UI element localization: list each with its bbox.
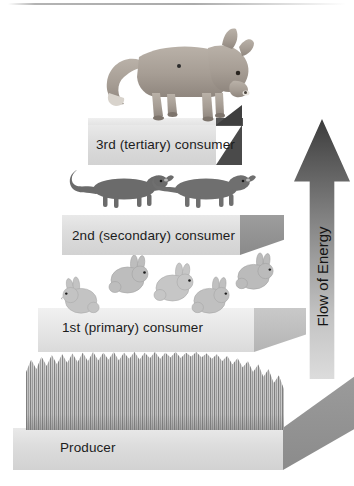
pyramid-label-producer: Producer [60, 440, 116, 455]
top-divider-rule [8, 3, 346, 5]
rabbit-icon [232, 252, 280, 292]
pyramid-label-primary-consumer: 1st (primary) consumer [62, 320, 203, 335]
energy-pyramid-diagram: Producer 1st (primary) consumer [0, 0, 354, 486]
rabbit-icon [105, 254, 155, 296]
weasel-icon [150, 163, 258, 211]
pyramid-label-tertiary-consumer: 3rd (tertiary) consumer [96, 137, 235, 152]
arrow-up-shape [294, 119, 350, 379]
pyramid-label-secondary-consumer: 2nd (secondary) consumer [72, 228, 235, 243]
rabbit-icon [58, 276, 106, 316]
grass-icon [26, 352, 284, 430]
rabbit-icon [188, 276, 236, 316]
producer-block-side-face [283, 376, 354, 470]
grass-base-shadow [26, 414, 284, 430]
flow-of-energy-arrow-icon [294, 119, 350, 379]
secondary-block-side-face [240, 215, 284, 255]
pyramid-level-producer [13, 428, 283, 470]
producer-block-top-face [13, 428, 283, 470]
fox-icon [104, 18, 256, 126]
